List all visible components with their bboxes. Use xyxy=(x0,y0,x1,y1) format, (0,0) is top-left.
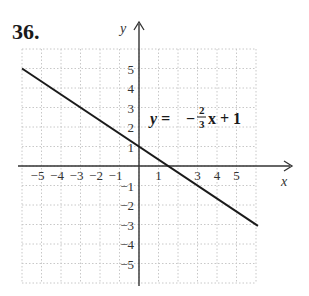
function-line xyxy=(22,69,258,226)
y-tick-label: −2 xyxy=(120,198,134,213)
x-tick-label: 1 xyxy=(155,168,162,183)
y-tick-label: −5 xyxy=(120,257,134,272)
x-tick-label: 4 xyxy=(214,168,221,183)
y-tick-label: −1 xyxy=(120,179,134,194)
x-tick-label: −5 xyxy=(31,168,45,183)
y-axis-label: y xyxy=(118,21,127,36)
y-tick-label: −3 xyxy=(120,218,134,233)
x-tick-label: 5 xyxy=(233,168,240,183)
equation-lhs: y = xyxy=(148,110,170,128)
equation-numerator: 2 xyxy=(199,104,205,116)
equation-denominator: 3 xyxy=(199,118,205,130)
x-tick-label: 3 xyxy=(194,168,201,183)
y-tick-label: −4 xyxy=(120,237,134,252)
problem-number: 36. xyxy=(12,19,40,44)
coordinate-plane: −5−4−3−2−1134554321−1−2−3−4−5 36. y x y … xyxy=(0,0,309,296)
y-tick-label: 3 xyxy=(128,101,135,116)
equation-rest: x + 1 xyxy=(208,110,241,127)
y-tick-label: 2 xyxy=(128,120,135,135)
axes xyxy=(18,22,292,286)
equation-sign: − xyxy=(186,110,195,127)
x-tick-label: −4 xyxy=(50,168,64,183)
x-tick-label: −2 xyxy=(89,168,103,183)
x-axis-label: x xyxy=(280,174,288,189)
y-tick-label: 4 xyxy=(128,81,135,96)
x-tick-label: −3 xyxy=(70,168,84,183)
y-tick-label: 5 xyxy=(128,62,135,77)
